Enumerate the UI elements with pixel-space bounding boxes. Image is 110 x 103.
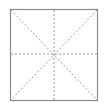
rice-grid-icon [0,0,110,103]
